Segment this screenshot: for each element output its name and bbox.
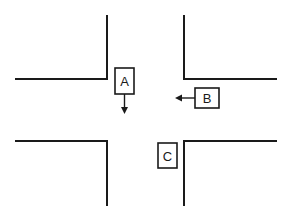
- road-corner-bottom-left: [15, 141, 107, 206]
- vehicle-b: B: [175, 88, 219, 108]
- road-corner-top-left: [15, 15, 107, 79]
- road-corner-bottom-right: [184, 141, 277, 206]
- road-corner-top-right: [184, 15, 277, 79]
- vehicle-c: C: [158, 143, 177, 168]
- vehicle-a-label: A: [120, 74, 129, 89]
- vehicle-c-label: C: [163, 149, 172, 164]
- arrow-left-icon: [175, 95, 182, 102]
- road-edges: [15, 15, 277, 206]
- vehicle-b-label: B: [203, 91, 212, 106]
- intersection-diagram: A B C: [0, 0, 287, 217]
- vehicle-a: A: [115, 68, 134, 114]
- arrow-down-icon: [121, 107, 128, 114]
